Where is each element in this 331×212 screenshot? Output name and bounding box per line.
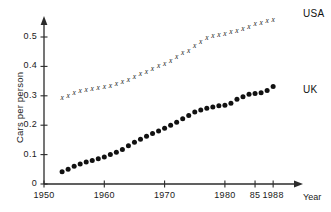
data-point: x [65, 91, 70, 100]
data-point [240, 94, 245, 99]
data-point [60, 169, 65, 174]
data-point: x [96, 83, 101, 92]
data-point: x [258, 18, 263, 27]
data-point: x [156, 61, 161, 70]
data-point [168, 123, 173, 128]
data-point: x [168, 56, 173, 65]
data-point [216, 103, 221, 108]
data-point [210, 104, 215, 109]
y-axis-title: Cars per person [14, 72, 25, 143]
data-point: x [222, 29, 227, 38]
data-point: x [102, 82, 107, 91]
data-point: x [252, 19, 257, 28]
data-point [234, 97, 239, 102]
data-point [192, 109, 197, 114]
data-point [66, 167, 71, 172]
data-point [96, 156, 101, 161]
data-point: x [204, 33, 209, 42]
data-point: x [150, 64, 155, 73]
y-tick-label-4: 0.4 [24, 60, 37, 70]
data-point [259, 90, 264, 95]
x-tick-label-3: 1980 [214, 190, 235, 200]
data-point [156, 129, 161, 134]
data-point: x [114, 79, 119, 88]
data-point: x [228, 27, 233, 36]
data-point [132, 140, 137, 145]
data-point [174, 120, 179, 125]
data-point [162, 126, 167, 131]
data-point: x [59, 93, 64, 102]
data-point: x [264, 16, 269, 25]
uk-series-label: UK [303, 84, 318, 95]
data-point [144, 134, 149, 139]
data-point [204, 106, 209, 111]
x-tick-label-2: 1970 [154, 190, 175, 200]
series-uk-points [60, 84, 276, 174]
x-tick-label-0: 1950 [33, 190, 54, 200]
data-point [126, 143, 131, 148]
data-point: x [234, 26, 239, 35]
data-point [271, 84, 276, 89]
data-point [102, 154, 107, 159]
data-point: x [84, 85, 89, 94]
data-point: x [174, 52, 179, 61]
x-tick-label-1: 1960 [94, 190, 115, 200]
data-point: x [90, 84, 95, 93]
data-point [108, 152, 113, 157]
data-point: x [138, 69, 143, 78]
data-point [247, 92, 252, 97]
data-point: x [162, 59, 167, 68]
data-point: x [186, 46, 191, 55]
x-axis-arrow [294, 181, 303, 188]
x-axis-title: Year [303, 192, 321, 202]
series-usa-points: xxxxxxxxxxxxxxxxxxxxxxxxxxxxxxxxxxxx [59, 15, 275, 102]
usa-series-label: USA [303, 8, 324, 19]
data-point: x [246, 22, 251, 31]
data-point [138, 137, 143, 142]
data-point [228, 101, 233, 106]
data-point [253, 91, 258, 96]
data-point [120, 147, 125, 152]
data-point [150, 131, 155, 136]
data-point [72, 164, 77, 169]
data-point [84, 159, 89, 164]
data-point [90, 158, 95, 163]
data-point: x [78, 86, 83, 95]
data-point: x [144, 67, 149, 76]
data-point: x [216, 30, 221, 39]
data-point: x [132, 72, 137, 81]
data-point: x [192, 41, 197, 50]
data-point [265, 88, 270, 93]
data-point [114, 150, 119, 155]
data-point: x [270, 15, 275, 24]
data-point: x [240, 24, 245, 33]
x-tick-label-4: 85 [250, 190, 261, 200]
y-tick-label-1: 0.1 [24, 149, 37, 159]
data-point [222, 103, 227, 108]
data-point: x [126, 75, 131, 84]
data-point: x [198, 37, 203, 46]
data-point [186, 113, 191, 118]
y-axis-arrow [41, 16, 48, 25]
data-point: x [210, 31, 215, 40]
plot-area: xxxxxxxxxxxxxxxxxxxxxxxxxxxxxxxxxxxx [0, 0, 331, 212]
data-point: x [180, 48, 185, 57]
y-tick-label-2: 0.2 [24, 119, 37, 129]
chart-figure: xxxxxxxxxxxxxxxxxxxxxxxxxxxxxxxxxxxx Car… [0, 0, 331, 212]
data-point [78, 162, 83, 167]
y-tick-label-3: 0.3 [24, 90, 37, 100]
y-tick-label-5: 0.5 [24, 31, 37, 41]
data-point: x [71, 88, 76, 97]
data-point [180, 116, 185, 121]
data-point: x [120, 77, 125, 86]
x-tick-label-5: 1988 [263, 190, 284, 200]
y-tick-label-0: 0 [32, 178, 37, 188]
data-point: x [108, 81, 113, 90]
data-point [198, 107, 203, 112]
